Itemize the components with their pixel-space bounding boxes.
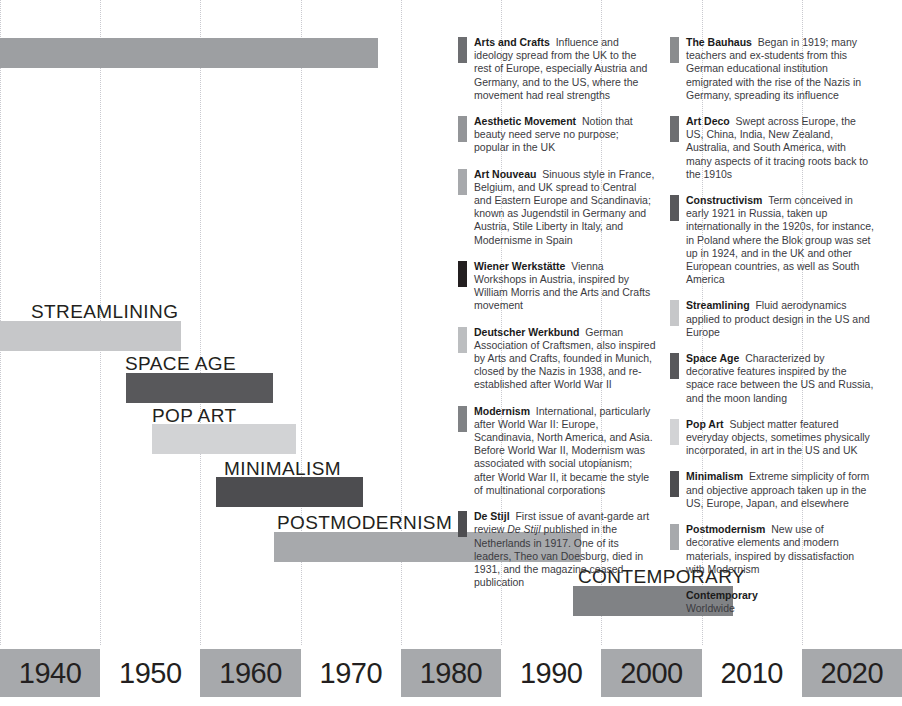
axis-tick-1950: 1950 [100, 649, 200, 697]
legend-term: Aesthetic Movement [474, 115, 582, 127]
legend-description: Worldwide [686, 602, 874, 615]
axis-tick-2020: 2020 [802, 649, 902, 697]
axis-tick-1990: 1990 [501, 649, 601, 697]
legend-swatch [458, 169, 467, 195]
legend-swatch [458, 406, 467, 432]
timeline-bar [152, 424, 296, 454]
legend-entry: MinimalismExtreme simplicity of form and… [670, 470, 874, 510]
legend-term: Art Nouveau [474, 168, 542, 180]
legend-column-1: Arts and CraftsInfluence and ideology sp… [458, 36, 656, 602]
legend-entry: Aesthetic MovementNotion that beauty nee… [458, 115, 656, 155]
legend-column-2: The BauhausBegan in 1919; many teachers … [670, 36, 874, 628]
legend-swatch [670, 419, 679, 445]
legend-entry: Space AgeCharacterized by decorative fea… [670, 352, 874, 405]
legend-term: De Stijl [474, 510, 515, 522]
legend-entry: StreamliningFluid aerodynamics applied t… [670, 299, 874, 339]
timeline-bar [0, 38, 378, 68]
timeline-bar-label: POSTMODERNISM [277, 513, 452, 532]
legend-swatch [458, 327, 467, 353]
legend-swatch [670, 116, 679, 142]
legend-entry: ModernismInternational, particularly aft… [458, 405, 656, 497]
legend-term: Arts and Crafts [474, 36, 556, 48]
timeline-bar-label: STREAMLINING [31, 302, 178, 321]
legend-swatch [670, 353, 679, 379]
axis-tick-1960: 1960 [200, 649, 300, 697]
axis-tick-2010: 2010 [702, 649, 802, 697]
legend-term: Streamlining [686, 299, 755, 311]
timeline-bar [0, 321, 181, 351]
legend-entry: ConstructivismTerm conceived in early 19… [670, 194, 874, 286]
timeline-bar [126, 373, 273, 403]
legend-term: Postmodernism [686, 523, 771, 535]
legend-term: Deutscher Werkbund [474, 326, 585, 338]
axis-tick-2000: 2000 [601, 649, 701, 697]
axis-tick-1940: 1940 [0, 649, 100, 697]
timeline-bar-label: SPACE AGE [125, 354, 236, 373]
axis-tick-1970: 1970 [301, 649, 401, 697]
legend-swatch [670, 300, 679, 326]
decade-axis: 194019501960197019801990200020102020 [0, 649, 902, 697]
legend-swatch [458, 116, 467, 142]
legend-entry: ContemporaryWorldwide [670, 589, 874, 615]
legend-term: The Bauhaus [686, 36, 758, 48]
legend-entry: Deutscher WerkbundGerman Association of … [458, 326, 656, 392]
legend-term: Contemporary [686, 589, 764, 601]
legend-entry: Art NouveauSinuous style in France, Belg… [458, 168, 656, 247]
legend-description: International, particularly after World … [474, 405, 653, 496]
legend-term: Space Age [686, 352, 745, 364]
timeline-bar-label: MINIMALISM [224, 459, 341, 478]
legend-entry: Arts and CraftsInfluence and ideology sp… [458, 36, 656, 102]
legend-term: Modernism [474, 405, 536, 417]
legend-entry: Pop ArtSubject matter featured everyday … [670, 418, 874, 458]
legend-swatch [458, 37, 467, 63]
legend-term: Pop Art [686, 418, 729, 430]
timeline-bar [216, 477, 363, 507]
legend-entry: The BauhausBegan in 1919; many teachers … [670, 36, 874, 102]
legend-swatch [670, 524, 679, 550]
gridline [200, 0, 202, 645]
legend-swatch [458, 511, 467, 537]
legend-term: Minimalism [686, 470, 749, 482]
legend-entry: Art DecoSwept across Europe, the US, Chi… [670, 115, 874, 181]
legend-term: Constructivism [686, 194, 768, 206]
timeline-bar-label: POP ART [152, 406, 236, 425]
legend-description: Term conceived in early 1921 in Russia, … [686, 194, 874, 285]
axis-tick-1980: 1980 [401, 649, 501, 697]
legend-swatch [458, 261, 467, 287]
legend-swatch [670, 195, 679, 221]
legend-swatch [670, 590, 679, 616]
legend-term: Wiener Werkstätte [474, 260, 571, 272]
legend-entry: De StijlFirst issue of avant-garde art r… [458, 510, 656, 589]
legend-entry: PostmodernismNew use of decorative eleme… [670, 523, 874, 576]
legend-swatch [670, 37, 679, 63]
legend-entry: Wiener WerkstätteVienna Workshops in Aus… [458, 260, 656, 313]
legend-swatch [670, 471, 679, 497]
legend-term: Art Deco [686, 115, 736, 127]
